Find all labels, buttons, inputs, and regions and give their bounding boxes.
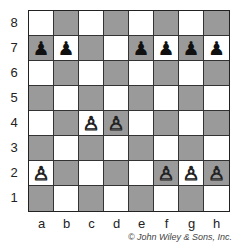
square-g7: ♟ — [179, 36, 204, 61]
square-b6 — [54, 61, 79, 86]
black-pawn-icon: ♟ — [32, 39, 49, 58]
square-g8 — [179, 11, 204, 36]
file-label: d — [104, 216, 129, 231]
square-d6 — [104, 61, 129, 86]
square-e1 — [129, 186, 154, 211]
square-a7: ♟ — [29, 36, 54, 61]
square-f4 — [154, 111, 179, 136]
rank-label: 4 — [7, 115, 21, 130]
square-a8 — [29, 11, 54, 36]
white-pawn-icon: ♙ — [208, 164, 225, 183]
white-pawn-icon: ♙ — [157, 164, 174, 183]
white-pawn-icon: ♙ — [107, 114, 124, 133]
rank-label: 8 — [7, 15, 21, 30]
white-pawn-icon: ♙ — [182, 164, 199, 183]
file-label: a — [29, 216, 54, 231]
white-pawn-icon: ♙ — [82, 114, 99, 133]
square-h1 — [204, 186, 229, 211]
square-g1 — [179, 186, 204, 211]
square-d3 — [104, 136, 129, 161]
white-pawn-icon: ♙ — [32, 164, 49, 183]
square-h4 — [204, 111, 229, 136]
square-e6 — [129, 61, 154, 86]
square-a3 — [29, 136, 54, 161]
square-c7 — [79, 36, 104, 61]
square-c2 — [79, 161, 104, 186]
square-d2 — [104, 161, 129, 186]
square-g3 — [179, 136, 204, 161]
square-a2: ♙ — [29, 161, 54, 186]
square-c8 — [79, 11, 104, 36]
black-pawn-icon: ♟ — [208, 39, 225, 58]
square-c3 — [79, 136, 104, 161]
copyright-text: © John Wiley & Sons, Inc. — [128, 232, 232, 242]
rank-label: 2 — [7, 165, 21, 180]
square-e2 — [129, 161, 154, 186]
square-a6 — [29, 61, 54, 86]
rank-label: 7 — [7, 40, 21, 55]
square-g6 — [179, 61, 204, 86]
square-d7 — [104, 36, 129, 61]
square-g2: ♙ — [179, 161, 204, 186]
square-c5 — [79, 86, 104, 111]
square-c6 — [79, 61, 104, 86]
file-label: g — [179, 216, 204, 231]
square-a1 — [29, 186, 54, 211]
square-f1 — [154, 186, 179, 211]
square-b4 — [54, 111, 79, 136]
square-b5 — [54, 86, 79, 111]
square-a4 — [29, 111, 54, 136]
square-b1 — [54, 186, 79, 211]
square-f2: ♙ — [154, 161, 179, 186]
square-b7: ♟ — [54, 36, 79, 61]
square-f7: ♟ — [154, 36, 179, 61]
square-e7: ♟ — [129, 36, 154, 61]
square-d4: ♙ — [104, 111, 129, 136]
square-b8 — [54, 11, 79, 36]
rank-label: 1 — [7, 190, 21, 205]
file-label: c — [79, 216, 104, 231]
rank-label: 3 — [7, 140, 21, 155]
chess-board: ♟♟♟♟♟♟♙♙♙♙♙♙ — [28, 10, 230, 212]
square-d1 — [104, 186, 129, 211]
square-a5 — [29, 86, 54, 111]
square-h5 — [204, 86, 229, 111]
square-h2: ♙ — [204, 161, 229, 186]
square-e4 — [129, 111, 154, 136]
file-label: h — [204, 216, 229, 231]
square-f6 — [154, 61, 179, 86]
square-h6 — [204, 61, 229, 86]
square-e3 — [129, 136, 154, 161]
square-c4: ♙ — [79, 111, 104, 136]
square-f3 — [154, 136, 179, 161]
square-g5 — [179, 86, 204, 111]
square-b3 — [54, 136, 79, 161]
square-d8 — [104, 11, 129, 36]
file-label: b — [54, 216, 79, 231]
square-e5 — [129, 86, 154, 111]
square-h3 — [204, 136, 229, 161]
square-b2 — [54, 161, 79, 186]
square-g4 — [179, 111, 204, 136]
black-pawn-icon: ♟ — [157, 39, 174, 58]
square-f5 — [154, 86, 179, 111]
square-h7: ♟ — [204, 36, 229, 61]
square-c1 — [79, 186, 104, 211]
square-f8 — [154, 11, 179, 36]
black-pawn-icon: ♟ — [57, 39, 74, 58]
file-label: f — [154, 216, 179, 231]
square-h8 — [204, 11, 229, 36]
rank-label: 5 — [7, 90, 21, 105]
square-e8 — [129, 11, 154, 36]
file-label: e — [129, 216, 154, 231]
square-d5 — [104, 86, 129, 111]
rank-label: 6 — [7, 65, 21, 80]
black-pawn-icon: ♟ — [132, 39, 149, 58]
black-pawn-icon: ♟ — [182, 39, 199, 58]
